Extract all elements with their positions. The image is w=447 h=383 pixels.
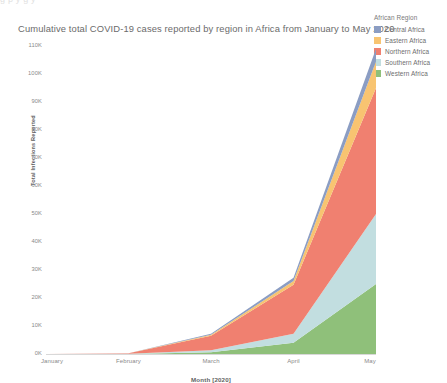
x-axis-tick-label: February (116, 358, 141, 364)
legend-item-label: Western Africa (385, 70, 428, 77)
y-axis-tick-label: 50K (16, 210, 42, 216)
y-axis-tick-label: 40K (16, 238, 42, 244)
legend-item[interactable]: Northern Africa (374, 46, 446, 57)
chart-legend: African Region Central AfricaEastern Afr… (374, 14, 446, 79)
x-axis-title: Month [2020] (46, 376, 376, 383)
legend-item[interactable]: Eastern Africa (374, 35, 446, 46)
x-axis-line (46, 354, 376, 355)
y-axis-tick-label: 0K (16, 350, 42, 356)
legend-color-swatch (374, 26, 381, 33)
chart-title: Cumulative total COVID-19 cases reported… (18, 23, 366, 35)
y-axis-tick-label: 30K (16, 266, 42, 272)
legend-item-label: Southern Africa (385, 59, 430, 66)
x-axis-tick-label: April (287, 358, 300, 364)
x-axis-tick-label: May (364, 358, 376, 364)
plot-area: Total Infections Reported 110K100K90K80K… (46, 46, 376, 354)
y-axis-tick-label: 110K (16, 42, 42, 48)
y-axis-tick-label: 80K (16, 126, 42, 132)
y-axis-tick-label: 60K (16, 182, 42, 188)
legend-item-list: Central AfricaEastern AfricaNorthern Afr… (374, 24, 446, 79)
y-axis-tick-label: 20K (16, 294, 42, 300)
x-axis-tick-label: March (202, 358, 219, 364)
legend-item[interactable]: Southern Africa (374, 57, 446, 68)
legend-item-label: Eastern Africa (385, 37, 426, 44)
legend-item-label: Northern Africa (385, 48, 429, 55)
y-axis-tick-label: 90K (16, 98, 42, 104)
stacked-area-plot (46, 46, 376, 354)
legend-item-label: Central Africa (385, 26, 425, 33)
legend-item[interactable]: Western Africa (374, 68, 446, 79)
y-axis-tick-label: 70K (16, 154, 42, 160)
legend-title: African Region (374, 14, 446, 21)
legend-color-swatch (374, 37, 381, 44)
x-axis-tick-label: January (41, 358, 63, 364)
y-axis-tick-label: 100K (16, 70, 42, 76)
legend-item[interactable]: Central Africa (374, 24, 446, 35)
y-axis-tick-label: 10K (16, 322, 42, 328)
